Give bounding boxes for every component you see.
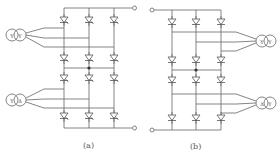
transformer-y-y-icon: Y Y <box>256 35 276 47</box>
svg-text:Δ: Δ <box>18 98 22 104</box>
svg-text:Δ: Δ <box>260 101 264 107</box>
svg-text:Y: Y <box>17 33 22 39</box>
rectifier-circuit-diagram: Y Y Y Δ <box>0 0 280 158</box>
svg-text:Y: Y <box>9 98 14 104</box>
svg-text:Y: Y <box>9 33 14 39</box>
caption-a: (a) <box>83 141 94 150</box>
panel-a: Y Y Y Δ <box>6 6 137 130</box>
svg-text:Y: Y <box>267 101 272 107</box>
svg-text:Y: Y <box>259 39 264 45</box>
svg-text:Y: Y <box>267 39 272 45</box>
caption-b: (b) <box>190 142 201 151</box>
transformer-y-delta-icon: Y Δ <box>6 94 26 106</box>
transformer-delta-y-icon: Δ Y <box>256 97 276 109</box>
transformer-y-y-icon: Y Y <box>6 29 26 41</box>
panel-b: Y Y Δ Y <box>150 8 276 132</box>
